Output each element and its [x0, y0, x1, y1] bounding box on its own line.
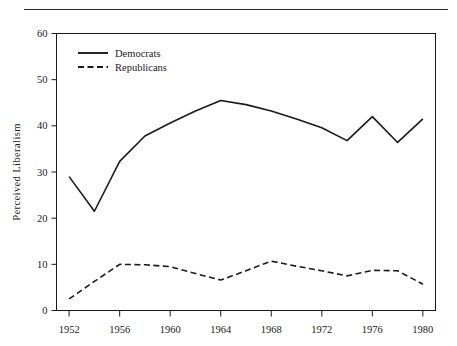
chart-legend: Democrats Republicans [78, 48, 167, 73]
y-tick-label: 0 [42, 305, 47, 316]
series-line-republicans [69, 261, 423, 299]
chart-page: 0102030405060 19521956196019641968197219… [0, 0, 457, 346]
x-tick-label: 1964 [210, 324, 232, 335]
legend-label-republicans: Republicans [115, 62, 167, 73]
y-tick-label: 30 [37, 167, 48, 178]
x-tick-label: 1952 [59, 324, 80, 335]
y-tick-label: 10 [37, 259, 48, 270]
legend-label-democrats: Democrats [115, 48, 160, 59]
x-tick-label: 1980 [412, 324, 433, 335]
line-chart: 0102030405060 19521956196019641968197219… [0, 0, 457, 346]
x-tick-label: 1960 [160, 324, 181, 335]
y-tick-label: 60 [37, 28, 48, 39]
x-axis-ticks [69, 311, 423, 317]
x-axis-tick-labels: 19521956196019641968197219761980 [59, 324, 434, 335]
y-axis-ticks [52, 34, 57, 311]
y-tick-label: 50 [37, 74, 48, 85]
x-tick-label: 1972 [311, 324, 332, 335]
y-axis-title: Perceived Liberalism [11, 123, 22, 221]
x-tick-label: 1976 [362, 324, 383, 335]
y-tick-label: 20 [37, 213, 48, 224]
y-tick-label: 40 [37, 120, 48, 131]
y-axis-tick-labels: 0102030405060 [37, 28, 48, 316]
series-line-democrats [69, 100, 423, 211]
data-series-group [69, 100, 423, 299]
x-tick-label: 1968 [261, 324, 282, 335]
x-tick-label: 1956 [109, 324, 130, 335]
